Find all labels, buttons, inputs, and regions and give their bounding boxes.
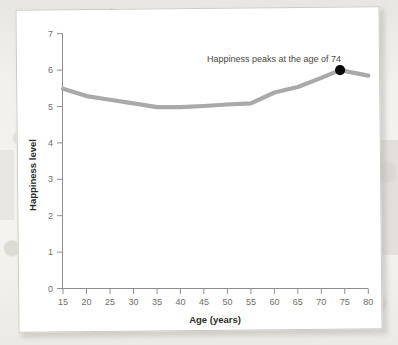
x-tick-label-55: 55	[246, 297, 256, 307]
y-tick-label-0: 0	[48, 284, 53, 294]
x-tick-label-35: 35	[152, 297, 162, 307]
x-tick-label-80: 80	[363, 297, 373, 307]
x-tick-label-75: 75	[340, 297, 350, 307]
peak-marker-dot	[335, 65, 345, 75]
x-axis-ticks	[63, 289, 368, 295]
happiness-line-series	[63, 70, 368, 107]
x-axis-title: Age (years)	[189, 314, 241, 325]
y-tick-label-3: 3	[48, 174, 53, 184]
line-chart-svg: 0 1 2 3 4 5 6 7	[0, 0, 398, 345]
x-tick-label-30: 30	[128, 297, 138, 307]
x-tick-label-45: 45	[199, 297, 209, 307]
y-tick-label-4: 4	[48, 138, 53, 148]
x-tick-label-50: 50	[222, 297, 232, 307]
chart-page: 0 1 2 3 4 5 6 7	[0, 0, 398, 345]
x-tick-label-70: 70	[316, 297, 326, 307]
chart-plot-area: 0 1 2 3 4 5 6 7	[0, 0, 398, 345]
x-tick-label-40: 40	[175, 297, 185, 307]
x-tick-label-60: 60	[269, 297, 279, 307]
y-tick-label-5: 5	[48, 102, 53, 112]
y-tick-label-6: 6	[48, 65, 53, 75]
y-tick-label-1: 1	[48, 247, 53, 257]
x-tick-label-25: 25	[105, 297, 115, 307]
peak-annotation-text: Happiness peaks at the age of 74	[207, 54, 341, 64]
y-tick-label-7: 7	[48, 29, 53, 39]
x-tick-label-20: 20	[81, 297, 91, 307]
y-axis-ticks	[57, 34, 63, 289]
y-tick-label-2: 2	[48, 211, 53, 221]
x-tick-label-15: 15	[58, 297, 68, 307]
y-axis-title: Happiness level	[27, 139, 38, 211]
x-tick-label-65: 65	[293, 297, 303, 307]
